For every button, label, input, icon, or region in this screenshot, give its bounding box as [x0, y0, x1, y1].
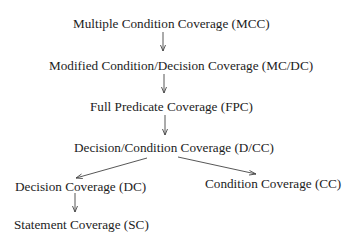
node-dcc: Decision/Condition Coverage (D/CC)	[74, 141, 274, 155]
node-cc: Condition Coverage (CC)	[205, 177, 341, 191]
coverage-hierarchy-diagram: Multiple Condition Coverage (MCC) Modifi…	[0, 0, 344, 240]
edge-mcdc-to-fpc	[162, 74, 167, 93]
edge-dcc-to-dc	[76, 158, 147, 179]
node-sc: Statement Coverage (SC)	[14, 218, 149, 232]
edge-dcc-to-cc	[178, 157, 256, 175]
node-dc: Decision Coverage (DC)	[15, 180, 146, 194]
edge-mcc-to-mcdc	[161, 32, 166, 51]
node-mcdc: Modified Condition/Decision Coverage (MC…	[49, 59, 313, 73]
edge-fpc-to-dcc	[163, 115, 168, 135]
edge-dc-to-sc	[73, 193, 78, 212]
node-fpc: Full Predicate Coverage (FPC)	[90, 100, 253, 114]
node-mcc: Multiple Condition Coverage (MCC)	[73, 17, 270, 31]
edges-layer	[0, 0, 344, 240]
